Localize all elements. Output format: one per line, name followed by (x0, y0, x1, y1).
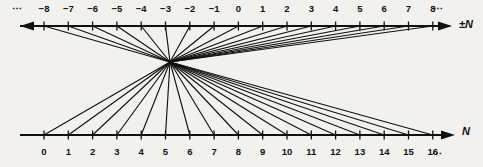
top-axis-left-arrowhead (20, 21, 34, 30)
top-axis-right-arrowhead (438, 21, 452, 30)
top-axis-label--6: −6 (87, 3, 98, 14)
bottom-axis-trailing-ellipsis: ⋯ (432, 148, 443, 159)
bottom-axis-label-0: 0 (41, 146, 46, 157)
bijection-diagram: −8−7−6−5−4−3−2−1012345678 01234567891011… (0, 0, 483, 167)
bottom-axis-label-6: 6 (187, 146, 192, 157)
diagram-canvas (0, 0, 483, 167)
top-axis-label--1: −1 (209, 3, 220, 14)
top-axis-label-2: 2 (284, 3, 289, 14)
top-axis-label-4: 4 (333, 3, 338, 14)
bottom-axis-label-13: 13 (355, 146, 366, 157)
top-axis-label--4: −4 (136, 3, 147, 14)
top-axis-label-7: 7 (406, 3, 411, 14)
top-axis-label-3: 3 (309, 3, 314, 14)
bottom-axis-label-1: 1 (66, 146, 71, 157)
bottom-axis-label-15: 15 (403, 146, 414, 157)
bottom-axis-label-7: 7 (211, 146, 216, 157)
top-axis-label-1: 1 (260, 3, 265, 14)
connector--8-to-15 (44, 26, 409, 135)
top-axis-label-0: 0 (236, 3, 241, 14)
top-axis-label--2: −2 (184, 3, 195, 14)
top-axis-label--5: −5 (111, 3, 122, 14)
top-axis-label-5: 5 (357, 3, 362, 14)
connector-2-to-4 (141, 26, 287, 135)
top-axis-trailing-ellipsis: ⋯ (433, 3, 444, 14)
top-axis-label--7: −7 (63, 3, 74, 14)
bottom-axis-label-10: 10 (282, 146, 293, 157)
connector-5-to-10 (170, 26, 360, 135)
bottom-axis-label-11: 11 (306, 146, 316, 157)
top-axis-leading-ellipsis: ⋯ (12, 3, 23, 14)
top-axis-label--3: −3 (160, 3, 171, 14)
top-axis-label: ±N (459, 18, 473, 30)
bottom-axis-label-4: 4 (139, 146, 144, 157)
connector--4-to-7 (141, 26, 214, 135)
connector--3-to-5 (166, 26, 171, 135)
bottom-axis-label: N (462, 125, 470, 137)
connector-lines (44, 26, 433, 135)
bottom-axis-label-5: 5 (163, 146, 168, 157)
top-axis-label-6: 6 (382, 3, 387, 14)
connector-6-to-12 (170, 26, 384, 135)
bottom-axis-right-arrowhead (441, 130, 455, 139)
bottom-axis-label-14: 14 (379, 146, 390, 157)
connector--6-to-11 (93, 26, 312, 135)
bottom-axis-label-3: 3 (114, 146, 119, 157)
bottom-axis-label-12: 12 (330, 146, 341, 157)
top-axis-label--8: −8 (39, 3, 50, 14)
bottom-axis-label-9: 9 (260, 146, 265, 157)
bottom-axis-label-8: 8 (236, 146, 241, 157)
bottom-axis-label-2: 2 (90, 146, 95, 157)
